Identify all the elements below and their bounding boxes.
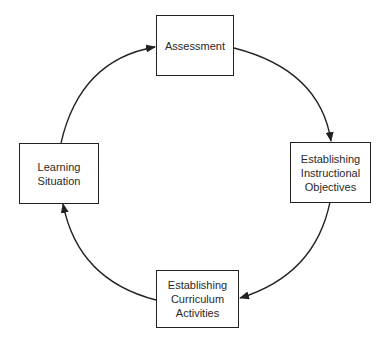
node-assessment: Assessment	[156, 15, 234, 76]
node-label-line: Learning	[38, 160, 81, 174]
node-label-line: Situation	[38, 174, 81, 188]
arrow-activities-to-situation	[63, 204, 156, 300]
node-curriculum-activities: Establishing Curriculum Activities	[156, 270, 239, 328]
node-label-line: Establishing	[168, 278, 227, 292]
node-label-line: Activities	[176, 306, 219, 320]
arrow-assessment-to-objectives	[234, 48, 331, 141]
arrow-situation-to-assessment	[61, 47, 155, 143]
node-label-line: Establishing	[301, 152, 360, 166]
node-label-line: Instructional	[301, 166, 360, 180]
node-instructional-objectives: Establishing Instructional Objectives	[290, 142, 371, 203]
node-label-line: Curriculum	[171, 292, 224, 306]
node-label-line: Assessment	[165, 39, 225, 53]
cycle-diagram: Assessment Establishing Instructional Ob…	[0, 0, 387, 344]
arrow-objectives-to-activities	[240, 202, 330, 298]
node-learning-situation: Learning Situation	[19, 143, 99, 204]
node-label-line: Objectives	[305, 180, 356, 194]
